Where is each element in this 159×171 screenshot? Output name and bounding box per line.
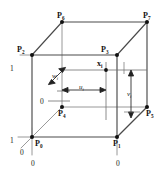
trilinear-cube-diagram: P0 P1 P2 P3 P4 P5 P6 P7 xi ui vi	[0, 0, 159, 171]
vertex-marker-P2	[30, 53, 34, 57]
xi-marker	[104, 68, 108, 72]
tick-u-0: 0	[116, 159, 120, 168]
sample-point-xi	[104, 68, 108, 72]
tick-v-1: 1	[10, 64, 14, 73]
vertex-marker-P0	[30, 135, 34, 139]
vertex-marker-P3	[115, 53, 119, 57]
tick-u-1: 1	[10, 136, 14, 145]
tick-origin-u: 0	[31, 159, 35, 168]
tick-v-0: 0	[40, 97, 44, 106]
tick-origin-w: 0	[20, 148, 24, 157]
